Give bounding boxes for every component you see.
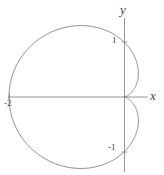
tick-label-y-positive-one: 1	[112, 36, 117, 45]
tick-label-y-negative-one: -1	[108, 143, 116, 152]
plot-canvas	[0, 0, 164, 175]
y-axis-label: y	[120, 3, 126, 16]
cardioid-figure: y x 1 -1 -2	[0, 0, 164, 175]
x-axis-label: x	[150, 89, 156, 102]
tick-label-x-negative-two: -2	[4, 99, 12, 108]
